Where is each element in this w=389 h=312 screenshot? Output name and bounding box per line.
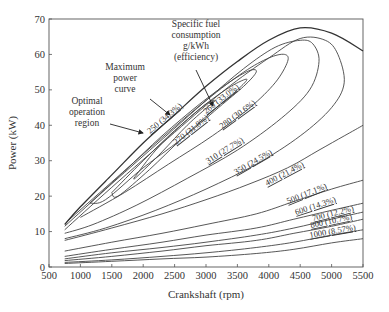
annotation-arrow [150,99,170,115]
y-tick-label: 50 [35,84,46,95]
annotation-text: Optimal [71,96,102,106]
y-tick-label: 10 [35,226,46,237]
efficiency-map-chart: 5001000150020002500300035004000450050005… [0,0,389,312]
annotation-text: power [113,73,138,83]
y-tick-label: 0 [40,262,45,273]
annotation-text: Specific fuel [172,19,221,29]
x-tick-label: 4500 [290,270,311,281]
x-tick-label: 3000 [196,270,217,281]
x-tick-label: 1000 [70,270,91,281]
contour-label: 400 (21.4%) [263,159,305,188]
y-axis-title: Power (kW) [6,116,19,170]
x-tick-label: 3500 [227,270,248,281]
y-tick-label: 70 [35,14,46,25]
x-tick-label: 2000 [133,270,154,281]
annotation-text: Maximum [105,62,145,72]
contour-label: 250 (34.3%) [145,100,184,135]
y-tick-label: 60 [35,49,46,60]
x-tick-label: 5000 [321,270,342,281]
annotation-text: g/kWh [183,41,209,51]
annotation-text: consumption [171,30,220,40]
x-tick-label: 4000 [258,270,279,281]
annotation-text: region [75,118,100,128]
x-tick-label: 5500 [353,270,374,281]
y-tick-label: 30 [35,155,46,166]
y-tick-label: 40 [35,120,46,131]
y-tick-label: 20 [35,191,46,202]
x-tick-label: 1500 [101,270,122,281]
annotation-text: operation [69,107,105,117]
x-tick-label: 2500 [164,270,185,281]
contour-label: 310 (27.7%) [204,135,245,166]
contour-labels: 250 (34.3%)270 (31.8%)260 (33.0%)280 (30… [145,81,357,240]
x-axis-title: Crankshaft (rpm) [168,288,244,301]
annotation-text: (efficiency) [174,52,218,63]
annotation-arrow [110,124,143,133]
contour-label: 350 (24.5%) [232,147,274,177]
annotation-text: curve [114,84,135,94]
